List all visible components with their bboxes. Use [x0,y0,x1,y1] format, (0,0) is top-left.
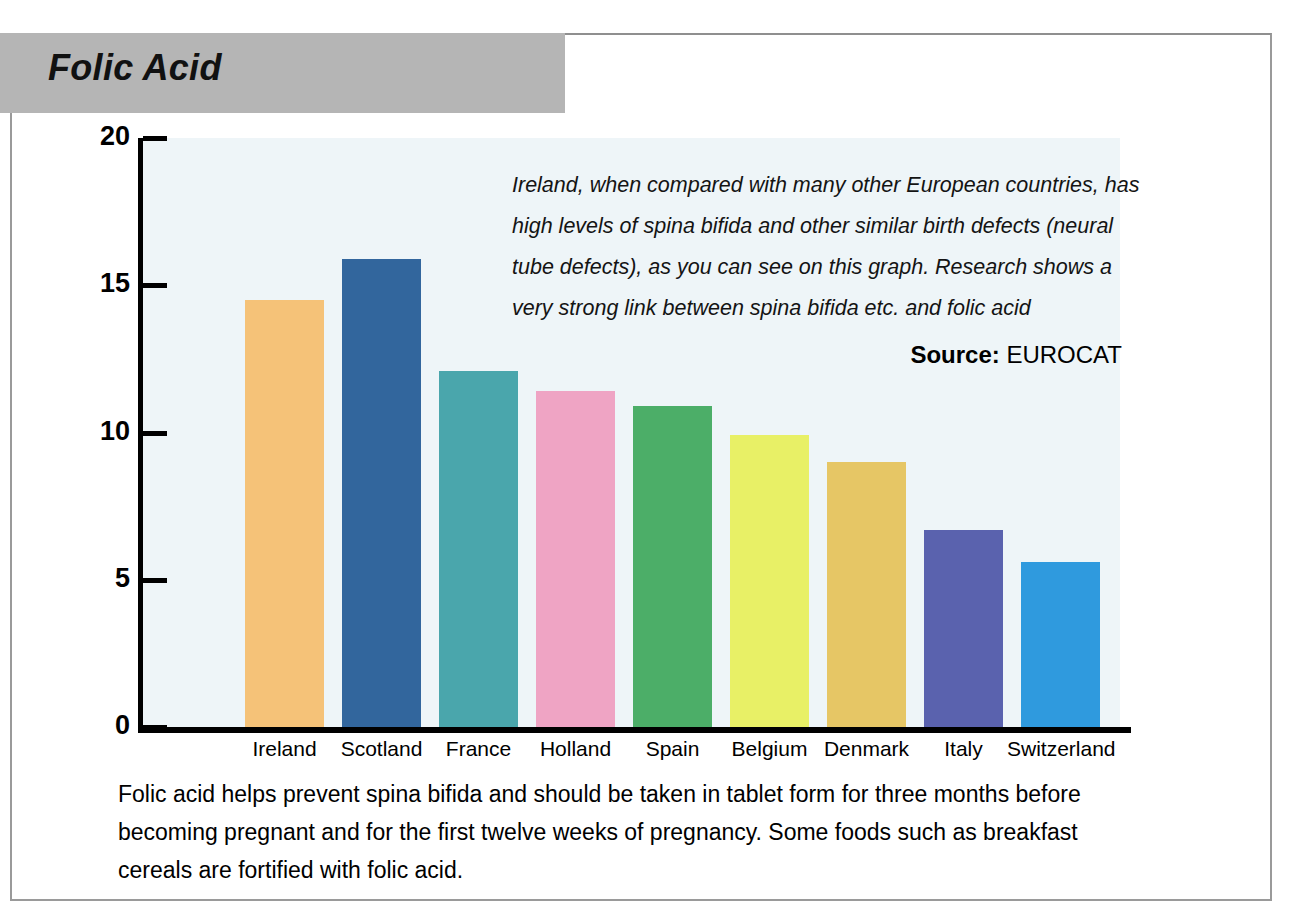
bar [1021,562,1100,727]
bar [827,462,906,727]
caption-line: Folic acid helps prevent spina bifida an… [118,775,1138,813]
x-axis-tick-label: Ireland [231,736,338,761]
source-credit: Source: EUROCAT [512,341,1122,370]
annotation-line: Ireland, when compared with many other E… [512,165,1122,206]
y-axis-tick-label: 5 [70,565,130,592]
annotation-line: high levels of spina bifida and other si… [512,206,1122,247]
bar [536,391,615,727]
y-axis-tick-label: 20 [70,123,130,150]
y-axis-tick-label: 15 [70,270,130,297]
y-axis-tick [143,136,167,141]
x-axis-tick-label: Holland [522,736,629,761]
x-axis-tick-label: France [425,736,532,761]
title-banner: Folic Acid [0,33,565,113]
y-axis-tick [143,578,167,583]
x-axis-tick-label: Denmark [813,736,920,761]
x-axis-tick-label: Switzerland [1007,736,1114,761]
bar [342,259,421,727]
y-axis-tick-label: 0 [70,712,130,739]
x-axis-tick-label: Italy [910,736,1017,761]
bar [245,300,324,727]
annotation-line: very strong link between spina bifida et… [512,288,1122,329]
y-axis-tick [143,725,167,730]
x-axis-tick-label: Spain [619,736,726,761]
chart-annotation: Ireland, when compared with many other E… [512,165,1122,370]
y-axis-tick-label: 10 [70,418,130,445]
caption-line: becoming pregnant and for the first twel… [118,813,1138,851]
bar [439,371,518,727]
bar [633,406,712,727]
annotation-line: tube defects), as you can see on this gr… [512,247,1122,288]
source-value: EUROCAT [1006,341,1122,368]
source-label: Source: [910,341,999,368]
y-axis-tick [143,283,167,288]
page-title: Folic Acid [48,47,222,89]
y-axis-tick [143,431,167,436]
caption-line: cereals are fortified with folic acid. [118,851,1138,889]
bar [730,435,809,727]
page-caption: Folic acid helps prevent spina bifida an… [118,775,1138,889]
bar [924,530,1003,727]
x-axis-tick-label: Belgium [716,736,823,761]
x-axis-labels: IrelandScotlandFranceHollandSpainBelgium… [138,736,1131,766]
x-axis-tick-label: Scotland [328,736,435,761]
x-axis-line [138,727,1131,733]
